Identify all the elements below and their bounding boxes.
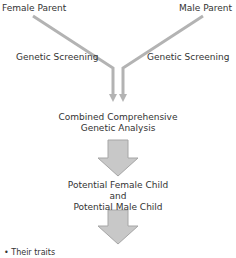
down-arrow-icon <box>98 140 138 176</box>
combined-analysis-title: Combined Comprehensive <box>0 112 236 123</box>
right-genetic-screening-label: Genetic Screening <box>147 52 229 63</box>
left-small-arrowhead-icon <box>109 94 117 102</box>
left-genetic-screening-label: Genetic Screening <box>16 52 98 63</box>
potential-male-child-label: Potential Male Child <box>0 202 236 213</box>
male-parent-label: Male Parent <box>179 3 232 14</box>
and-label: and <box>0 191 236 202</box>
right-small-arrowhead-icon <box>119 94 127 102</box>
traits-bullet-item: • Their traits <box>4 247 55 258</box>
female-parent-label: Female Parent <box>2 3 66 14</box>
potential-female-child-label: Potential Female Child <box>0 180 236 191</box>
down-arrow-icon <box>98 210 138 244</box>
combined-analysis-subtitle: Genetic Analysis <box>0 123 236 134</box>
traits-text: Their traits <box>11 248 55 257</box>
bullet-icon: • <box>4 248 9 257</box>
